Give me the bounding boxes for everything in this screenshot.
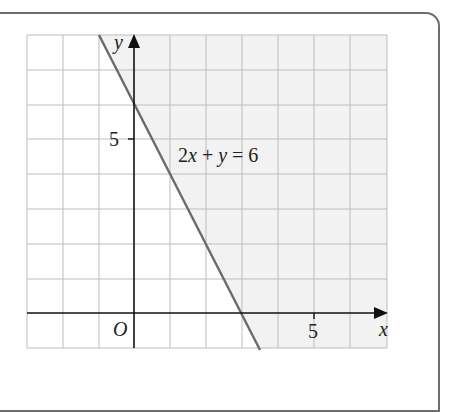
origin-label: O [113, 318, 127, 340]
x-tick-label-5: 5 [308, 320, 318, 342]
y-axis-label: y [112, 31, 123, 54]
eq-plus: + [197, 144, 218, 166]
eq-rest: = 6 [227, 144, 258, 166]
eq-x: x [187, 144, 197, 166]
x-axis-label: x [378, 318, 388, 340]
y-tick-label-5: 5 [109, 128, 119, 150]
eq-y: y [216, 144, 227, 167]
shaded-region [99, 35, 387, 348]
eq-coef: 2 [178, 144, 188, 166]
line-equation-label: 2x + y = 6 [178, 144, 258, 167]
